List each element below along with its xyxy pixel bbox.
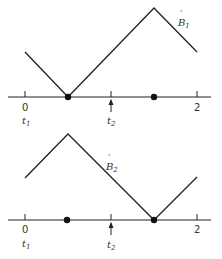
top-dot-2 bbox=[151, 94, 157, 100]
bottom-dot-2 bbox=[151, 217, 157, 223]
top-dot-1 bbox=[65, 94, 71, 100]
bottom-t1-label: t1 bbox=[22, 238, 31, 251]
bottom-axis-label-2: 2 bbox=[194, 224, 200, 235]
top-axis-label-0: 0 bbox=[22, 102, 28, 113]
top-curve-label: B1 bbox=[177, 17, 190, 30]
top-curve-accent: ° bbox=[180, 9, 183, 15]
bottom-plot: 0 2 t1 t2 ° B2 bbox=[8, 134, 211, 252]
bottom-curve-label: B2 bbox=[105, 161, 118, 174]
top-t1-label: t1 bbox=[22, 115, 31, 128]
top-t2-label: t2 bbox=[107, 115, 116, 128]
bottom-waveform bbox=[25, 134, 197, 220]
top-plot: 0 2 t1 t2 ° B1 bbox=[8, 8, 211, 128]
bottom-curve-accent: ° bbox=[108, 153, 111, 159]
bottom-axis-label-0: 0 bbox=[22, 224, 28, 235]
bottom-t2-label: t2 bbox=[107, 239, 116, 252]
diagram: 0 2 t1 t2 ° B1 0 2 t1 t2 ° B2 bbox=[0, 0, 222, 259]
bottom-dot-1 bbox=[64, 217, 70, 223]
top-waveform bbox=[25, 8, 197, 97]
bottom-t2-arrow bbox=[109, 222, 114, 235]
top-t2-arrow bbox=[109, 99, 114, 112]
top-axis-label-2: 2 bbox=[194, 102, 200, 113]
